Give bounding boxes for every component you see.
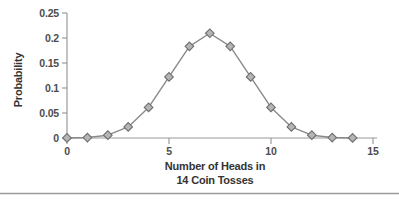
data-point-marker	[83, 133, 92, 142]
probability-line-chart: 00.050.10.150.20.25051015 Probability Nu…	[0, 0, 399, 204]
series-line	[67, 33, 353, 138]
data-point-marker	[206, 29, 215, 38]
chart-plot-area: 00.050.10.150.20.25051015	[39, 7, 379, 158]
y-tick-label: 0.15	[39, 57, 59, 69]
y-tick-label: 0	[53, 132, 59, 144]
data-point-marker	[63, 134, 72, 143]
data-point-marker	[226, 42, 235, 51]
x-axis-title-line1: Number of Heads in	[165, 160, 266, 172]
y-tick-label: 0.1	[45, 82, 59, 94]
data-point-marker	[185, 42, 194, 51]
data-point-marker	[328, 133, 337, 142]
y-tick-label: 0.25	[39, 7, 59, 19]
data-point-marker	[246, 73, 255, 82]
x-tick-label: 15	[367, 145, 379, 157]
y-tick-label: 0.05	[39, 107, 59, 119]
data-point-marker	[348, 134, 357, 143]
x-tick-label: 5	[166, 145, 172, 157]
data-point-marker	[165, 73, 174, 82]
y-axis-title: Probability	[12, 52, 24, 108]
x-axis-title-line2: 14 Coin Tosses	[176, 174, 253, 186]
y-tick-label: 0.2	[45, 32, 59, 44]
x-tick-label: 0	[64, 145, 70, 157]
binomial-distribution-figure: 00.050.10.150.20.25051015 Probability Nu…	[0, 0, 399, 204]
x-tick-label: 10	[265, 145, 277, 157]
